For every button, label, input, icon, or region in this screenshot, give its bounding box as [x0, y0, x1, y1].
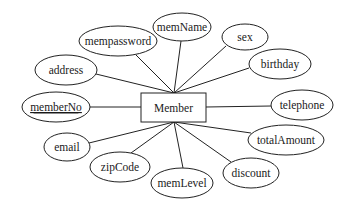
- attribute-address: address: [35, 55, 97, 85]
- edge-memName: [174, 41, 181, 93]
- edge-discount: [174, 122, 231, 162]
- attribute-totalAmount: totalAmount: [248, 125, 324, 155]
- entity-label: Member: [154, 102, 193, 114]
- edge-sex: [174, 46, 226, 93]
- edge-telephone: [206, 106, 271, 107]
- attribute-sex: sex: [222, 24, 268, 50]
- attribute-memName: memName: [153, 13, 211, 41]
- attribute-label: email: [54, 141, 80, 153]
- attribute-telephone: telephone: [271, 90, 333, 120]
- attribute-memLevel: memLevel: [151, 168, 213, 198]
- edge-address: [96, 74, 174, 93]
- er-diagram: mempasswordmemNamesexbirthdayaddressmemb…: [0, 0, 344, 210]
- attribute-label: memName: [157, 21, 207, 33]
- attribute-email: email: [44, 133, 90, 161]
- attribute-label: address: [49, 64, 84, 76]
- attribute-memberNo: memberNo: [22, 92, 90, 122]
- er-diagram-svg: mempasswordmemNamesexbirthdayaddressmemb…: [0, 0, 344, 210]
- attribute-label: totalAmount: [257, 134, 316, 146]
- edge-mempassword: [136, 55, 174, 93]
- edge-zipCode: [131, 122, 174, 153]
- entity-box: Member: [141, 93, 206, 122]
- attribute-label: memLevel: [157, 177, 206, 189]
- attribute-zipCode: zipCode: [90, 152, 150, 182]
- attribute-label: discount: [232, 167, 272, 179]
- attribute-birthday: birthday: [249, 49, 311, 79]
- edge-email: [89, 122, 174, 143]
- attribute-label: mempassword: [85, 35, 152, 48]
- attribute-label: sex: [237, 31, 253, 43]
- attribute-label: telephone: [280, 99, 325, 112]
- edge-totalAmount: [174, 122, 251, 133]
- attribute-label: memberNo: [30, 101, 82, 113]
- attribute-label: birthday: [261, 58, 300, 71]
- edge-memLevel: [174, 122, 183, 168]
- edge-birthday: [174, 68, 249, 93]
- attribute-mempassword: mempassword: [79, 26, 157, 56]
- attribute-label: zipCode: [101, 161, 139, 174]
- attribute-discount: discount: [223, 158, 279, 188]
